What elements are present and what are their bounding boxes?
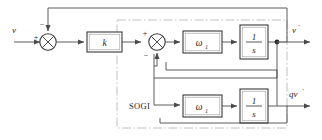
label-integrator-top-denominator: s — [252, 45, 256, 55]
label-output-qv-prime: qv ′ — [289, 87, 304, 99]
label-summer1-plus: + — [34, 33, 39, 42]
block-omega1-top — [183, 31, 222, 53]
label-sogi-region: SOGI — [129, 101, 150, 111]
label-omega1-top-subscript: 1 — [205, 44, 208, 50]
label-integrator-top-numerator: 1 — [252, 32, 257, 42]
label-summer2-minus: − — [144, 51, 149, 60]
diagram-canvas: v + − + − k ω 1 1 s ω 1 1 s SOGI — [0, 0, 322, 140]
block-omega1-bottom — [183, 95, 222, 117]
label-summer1-minus: − — [40, 20, 45, 29]
sogi-block-diagram: v + − + − k ω 1 1 s ω 1 1 s SOGI — [0, 0, 322, 140]
label-input-v: v — [12, 25, 16, 35]
label-omega1-bottom-subscript: 1 — [205, 108, 208, 114]
label-integrator-bottom-numerator: 1 — [252, 96, 257, 106]
label-output-qv-prime-mark: ′ — [302, 87, 304, 95]
label-output-v-prime-base: v — [292, 25, 296, 35]
label-omega1-bottom-symbol: ω — [196, 102, 203, 112]
label-output-v-prime-mark: ′ — [298, 23, 300, 31]
label-summer2-plus: + — [143, 29, 148, 38]
label-omega1-top-symbol: ω — [196, 38, 203, 48]
label-output-qv-prime-base: qv — [289, 89, 298, 99]
label-integrator-bottom-denominator: s — [252, 109, 256, 119]
label-output-v-prime: v ′ — [292, 23, 300, 35]
